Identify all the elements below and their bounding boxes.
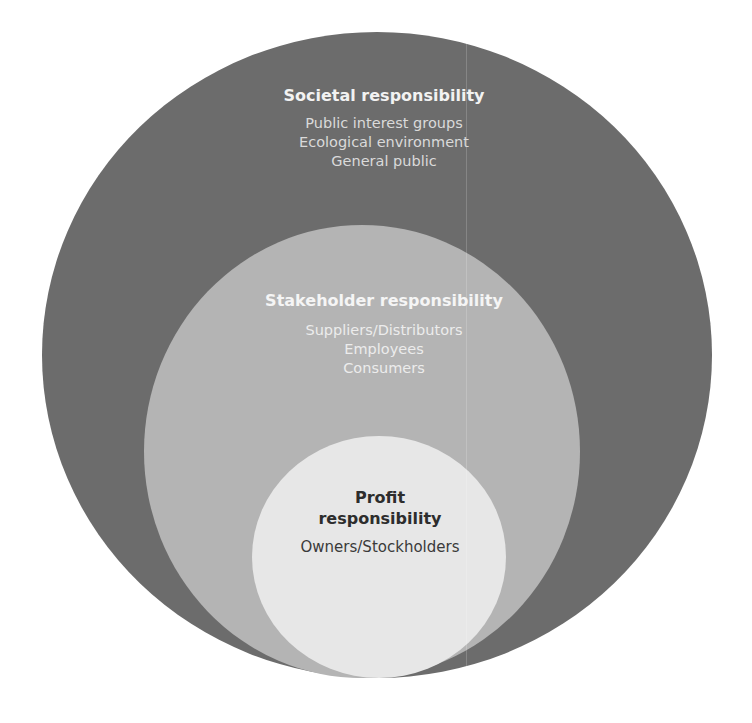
- profit-heading-line1: Profit: [4, 487, 752, 508]
- societal-item: Ecological environment: [8, 133, 752, 152]
- societal-heading: Societal responsibility: [8, 86, 752, 106]
- societal-item: Public interest groups: [8, 114, 752, 133]
- responsibility-diagram: Societal responsibility Public interest …: [0, 0, 752, 723]
- profit-label-block: Profit responsibility Owners/Stockholder…: [4, 487, 752, 557]
- stakeholder-heading: Stakeholder responsibility: [8, 291, 752, 311]
- stakeholder-item: Employees: [8, 340, 752, 359]
- stakeholder-item: Consumers: [8, 359, 752, 378]
- societal-item: General public: [8, 152, 752, 171]
- stakeholder-label-block: Stakeholder responsibility Suppliers/Dis…: [8, 291, 752, 378]
- stakeholder-item: Suppliers/Distributors: [8, 321, 752, 340]
- profit-responsibility-circle: [252, 436, 506, 678]
- profit-item: Owners/Stockholders: [4, 538, 752, 557]
- societal-label-block: Societal responsibility Public interest …: [8, 86, 752, 171]
- profit-heading-line2: responsibility: [4, 508, 752, 529]
